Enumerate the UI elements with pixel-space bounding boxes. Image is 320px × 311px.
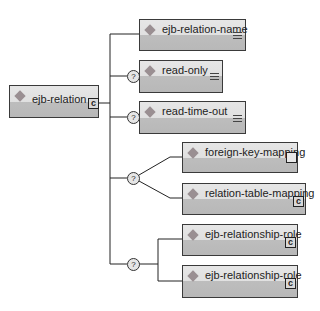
sequence-icon[interactable]: c: [285, 278, 296, 289]
sequence-icon[interactable]: c: [285, 237, 296, 248]
empty-element-icon: [286, 152, 297, 163]
element-diamond-icon: [144, 65, 155, 76]
element-diamond-icon: [187, 270, 198, 281]
node-ejb-relation-name[interactable]: ejb-relation-name: [139, 19, 246, 51]
node-read-only[interactable]: read-only: [139, 60, 223, 93]
element-diamond-icon: [144, 106, 155, 117]
node-relation-table-mapping[interactable]: relation-table-mapping c: [182, 183, 306, 215]
node-label: read-only: [162, 63, 208, 77]
text-content-icon: [232, 30, 243, 41]
text-content-icon: [232, 113, 243, 124]
node-foreign-key-mapping[interactable]: foreign-key-mapping: [182, 142, 298, 173]
sequence-optional-marker-icon: ?: [127, 258, 140, 271]
sequence-icon[interactable]: c: [293, 196, 304, 207]
node-label: ejb-relation: [32, 92, 86, 106]
choice-optional-marker-icon: ?: [127, 172, 140, 185]
element-diamond-icon: [144, 24, 155, 35]
element-diamond-icon: [187, 147, 198, 158]
node-label: read-time-out: [162, 104, 227, 118]
element-diamond-icon: [187, 229, 198, 240]
element-diamond-icon: [187, 188, 198, 199]
text-content-icon: [209, 71, 220, 82]
node-ejb-relationship-role-1[interactable]: ejb-relationship-role c: [182, 224, 298, 256]
element-diamond-icon: [14, 90, 25, 101]
sequence-icon[interactable]: c: [88, 98, 99, 109]
node-read-time-out[interactable]: read-time-out: [139, 101, 246, 134]
root-node-ejb-relation[interactable]: ejb-relation c: [9, 85, 99, 118]
node-ejb-relationship-role-2[interactable]: ejb-relationship-role c: [182, 265, 298, 298]
